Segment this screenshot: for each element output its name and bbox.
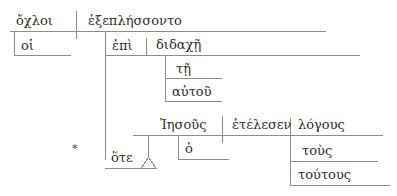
word-sub-subject-iesous: Ἰησοῦς xyxy=(160,118,206,131)
word-article-te: τῇ xyxy=(176,62,191,75)
word-subject-ochloi: ὄχλοι xyxy=(16,14,53,27)
word-preposition-epi: ἐπὶ xyxy=(112,39,133,52)
greek-sentence-diagram: ὄχλοι ἐξεπλήσσοντο οἱ ἐπὶ διδαχῇ τῇ αὐτο… xyxy=(0,0,397,196)
word-modifier-autou: αὐτοῦ xyxy=(172,85,212,98)
word-verb-exeplessonto: ἐξεπλήσσοντο xyxy=(88,14,182,27)
word-object-didache: διδαχῇ xyxy=(156,38,201,51)
word-modifier-toutous: τούτους xyxy=(298,168,351,181)
asterisk-marker: * xyxy=(72,143,78,154)
word-article-tous: τοὺς xyxy=(302,144,332,157)
word-article-hoi: οἱ xyxy=(21,39,34,52)
word-conjunction-ote: ὅτε xyxy=(111,151,133,164)
word-sub-object-logous: λόγους xyxy=(298,118,345,131)
clause-pedestal-triangle xyxy=(141,158,156,169)
word-sub-verb-etelesen: ἐτέλεσεν xyxy=(232,118,291,131)
word-article-ho: ὁ xyxy=(185,142,193,155)
